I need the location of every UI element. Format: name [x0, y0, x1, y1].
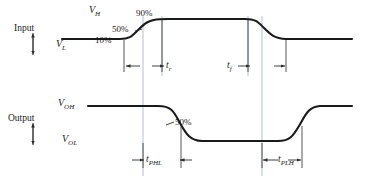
output-low-level-label: VOL [62, 134, 77, 147]
fall-time-subscript: f [230, 65, 232, 73]
input-low-level-subscript: L [62, 44, 66, 52]
rise-time-label: tr [166, 61, 171, 73]
timing-diagram-figure: Input Output VH VL VOH VOL 90% 50% 10% 5… [0, 0, 365, 176]
input-high-level-subscript: H [95, 10, 100, 18]
pointer-ticks [135, 29, 174, 125]
output-trace [88, 106, 352, 141]
input-10-percent-label: 10% [95, 36, 112, 45]
input-section-label: Input [14, 24, 34, 34]
diagram-canvas [0, 0, 365, 176]
output-waveform [88, 106, 352, 141]
prop-delay-lh-label: tPLH [278, 155, 294, 167]
prop-delay-lh-subscript: PLH [281, 159, 294, 167]
prop-delay-hl-label: tPHL [146, 155, 162, 167]
output-50-percent-label: 50% [175, 118, 192, 127]
pointer-output-50pct [166, 122, 174, 125]
prop-delay-hl-subscript: PHL [149, 159, 162, 167]
input-90-percent-label: 90% [136, 9, 153, 18]
input-low-level-label: VL [56, 39, 66, 52]
output-high-level-label: VOH [58, 98, 74, 111]
measurement-ticks [124, 20, 302, 168]
input-high-level-label: VH [89, 5, 100, 18]
output-high-level-subscript: OH [64, 103, 74, 111]
output-section-label: Output [8, 114, 34, 124]
fall-time-label: tf [227, 61, 232, 73]
output-low-level-subscript: OL [68, 139, 77, 147]
input-50-percent-label: 50% [112, 25, 129, 34]
guide-lines [143, 16, 262, 176]
rise-time-subscript: r [169, 65, 172, 73]
